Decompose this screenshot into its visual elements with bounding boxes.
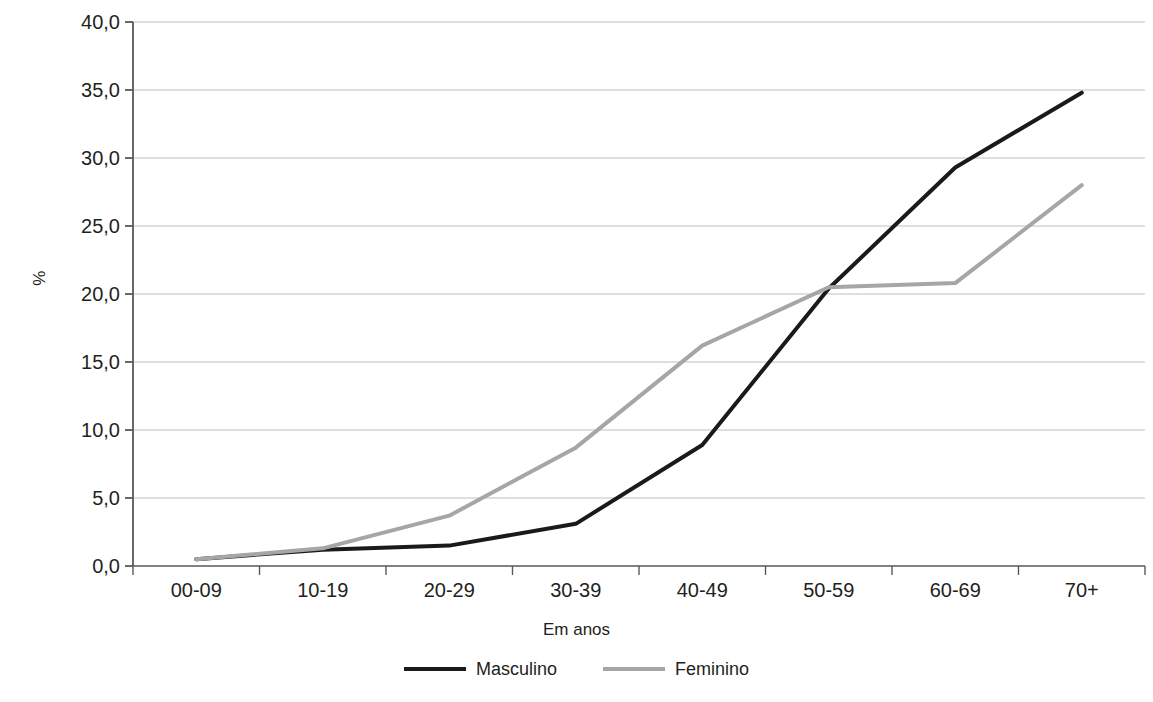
y-tick-label: 0,0 <box>48 556 120 576</box>
legend-item[interactable]: Masculino <box>404 660 557 678</box>
plot-area <box>133 22 1145 566</box>
legend-line-swatch <box>603 667 665 671</box>
y-axis-tick-labels: 0,05,010,015,020,025,030,035,040,0 <box>48 0 120 702</box>
legend-line-swatch <box>404 667 466 671</box>
x-tick-label: 70+ <box>1019 580 1145 600</box>
x-tick-label: 00-09 <box>133 580 259 600</box>
y-tick-label: 40,0 <box>48 12 120 32</box>
y-tick-label: 10,0 <box>48 420 120 440</box>
y-tick-label: 15,0 <box>48 352 120 372</box>
x-tick-label: 40-49 <box>639 580 765 600</box>
chart-legend: MasculinoFeminino <box>0 660 1153 678</box>
x-axis-tick-labels: 00-0910-1920-2930-3940-4950-5960-6970+ <box>133 580 1145 610</box>
series-lines <box>196 93 1082 559</box>
tick-marks <box>125 22 1145 575</box>
x-tick-label: 60-69 <box>892 580 1018 600</box>
series-line-masculino <box>196 93 1082 559</box>
legend-label: Masculino <box>476 660 557 678</box>
y-tick-label: 35,0 <box>48 80 120 100</box>
y-tick-label: 5,0 <box>48 488 120 508</box>
x-axis-title: Em anos <box>0 620 1153 640</box>
y-tick-label: 25,0 <box>48 216 120 236</box>
legend-item[interactable]: Feminino <box>603 660 749 678</box>
y-tick-label: 20,0 <box>48 284 120 304</box>
y-axis-title: % <box>30 248 50 308</box>
chart-page: % 0,05,010,015,020,025,030,035,040,0 00-… <box>0 0 1153 702</box>
x-tick-label: 50-59 <box>766 580 892 600</box>
x-tick-label: 10-19 <box>260 580 386 600</box>
chart-canvas <box>133 22 1145 566</box>
x-tick-label: 30-39 <box>513 580 639 600</box>
y-tick-label: 30,0 <box>48 148 120 168</box>
x-tick-label: 20-29 <box>386 580 512 600</box>
legend-label: Feminino <box>675 660 749 678</box>
series-line-feminino <box>196 185 1082 559</box>
